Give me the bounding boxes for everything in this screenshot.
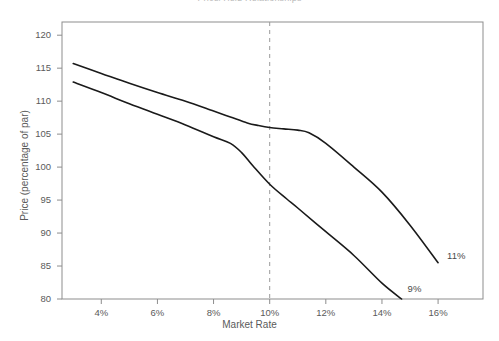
y-tick-label: 80 xyxy=(21,293,51,304)
x-axis-ticks xyxy=(101,299,438,304)
x-tick-label: 10% xyxy=(250,307,290,318)
series-lines xyxy=(73,64,438,299)
series-label-11pct: 11% xyxy=(447,250,465,261)
series-line-9pct xyxy=(73,82,401,299)
x-tick-label: 6% xyxy=(137,307,177,318)
y-tick-label: 85 xyxy=(21,260,51,271)
y-axis-ticks xyxy=(57,35,62,299)
x-tick-label: 14% xyxy=(362,307,402,318)
x-tick-label: 4% xyxy=(81,307,121,318)
y-tick-label: 105 xyxy=(21,128,51,139)
chart-figure: Price/Yield Relationships Market Rate Pr… xyxy=(0,0,499,341)
y-tick-label: 100 xyxy=(21,161,51,172)
x-tick-label: 16% xyxy=(418,307,458,318)
plot-area xyxy=(0,0,499,341)
plot-frame xyxy=(62,22,483,299)
y-tick-label: 120 xyxy=(21,29,51,40)
series-label-9pct: 9% xyxy=(408,283,422,294)
frame-border xyxy=(62,22,483,299)
x-tick-label: 12% xyxy=(306,307,346,318)
series-line-11pct xyxy=(73,64,438,263)
x-tick-label: 8% xyxy=(194,307,234,318)
y-tick-label: 115 xyxy=(21,62,51,73)
x-axis-title: Market Rate xyxy=(0,319,499,330)
y-tick-label: 95 xyxy=(21,194,51,205)
y-tick-label: 110 xyxy=(21,95,51,106)
y-tick-label: 90 xyxy=(21,227,51,238)
